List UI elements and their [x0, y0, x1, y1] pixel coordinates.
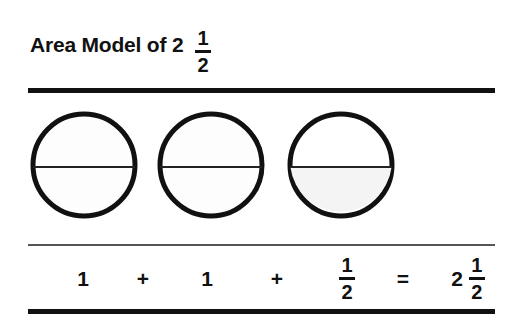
page-title-text: Area Model of 2 [30, 34, 189, 55]
equation-term-3-fraction: 1 2 [336, 252, 358, 304]
equation-operator-plus-2: + [266, 252, 288, 304]
equation-operator-equals: = [392, 252, 414, 304]
circle-1-graphic [29, 108, 139, 222]
title-fraction: 1 2 [195, 28, 211, 75]
equation-operator-equals-symbol: = [397, 268, 409, 289]
equation-result-mixed-number: 2 1 2 [440, 252, 496, 304]
page-title: Area Model of 2 1 2 [30, 28, 211, 80]
equation-fraction-bar [339, 277, 355, 280]
area-model-circles [0, 108, 513, 228]
equation-result-denominator: 2 [471, 282, 482, 302]
equation-result-fraction-bar [469, 277, 485, 280]
equation-result-numerator: 1 [471, 255, 482, 275]
bottom-rule [28, 309, 495, 314]
area-model-circle-3 [286, 108, 396, 222]
title-fraction-numerator: 1 [197, 28, 208, 48]
equation-fraction-one-half: 1 2 [339, 255, 355, 302]
diagram-canvas: Area Model of 2 1 2 [0, 0, 513, 325]
equation-term-1: 1 [72, 252, 94, 304]
circle-3-graphic [286, 108, 396, 222]
equation-term-2-value: 1 [201, 268, 213, 289]
equation-operator-plus-1: + [132, 252, 154, 304]
area-model-circle-2 [156, 108, 266, 222]
equation-term-1-value: 1 [77, 268, 89, 289]
title-fraction-bar [195, 50, 211, 53]
equation-result-whole: 2 [451, 268, 463, 289]
equation-fraction-denominator: 2 [341, 282, 352, 302]
area-model-circle-1 [29, 108, 139, 222]
equation-operator-plus-1-symbol: + [137, 268, 149, 289]
circle-2-graphic [156, 108, 266, 222]
equation-result-fraction: 1 2 [469, 255, 485, 302]
title-fraction-denominator: 2 [197, 55, 208, 75]
equation-fraction-numerator: 1 [341, 255, 352, 275]
equation-row: 1 + 1 + 1 2 = 2 1 2 [0, 252, 513, 308]
middle-rule [28, 244, 495, 246]
top-rule [28, 88, 495, 93]
equation-term-2: 1 [196, 252, 218, 304]
equation-operator-plus-2-symbol: + [271, 268, 283, 289]
